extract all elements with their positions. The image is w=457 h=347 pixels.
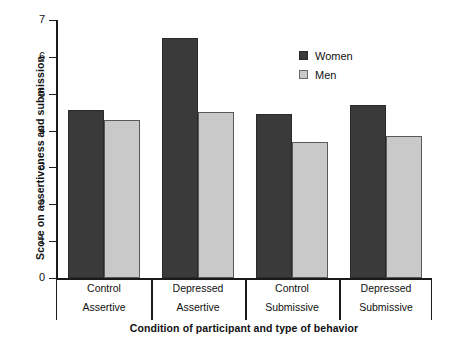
x-axis-category-4: DepressedSubmissive: [339, 279, 433, 320]
y-axis-tick-label: 5: [39, 87, 49, 100]
category-behavior-label: Assertive: [151, 301, 245, 313]
x-axis-title: Condition of participant and type of beh…: [56, 322, 432, 334]
category-separator: [151, 279, 153, 320]
x-axis-category-box: ControlAssertiveDepressedAssertiveContro…: [56, 279, 432, 320]
category-behavior-label: Submissive: [339, 301, 433, 313]
category-behavior-label: Submissive: [245, 301, 339, 313]
x-axis-category-2: DepressedAssertive: [151, 279, 245, 320]
legend-label: Women: [315, 50, 353, 62]
y-axis-tick-label: 2: [39, 197, 49, 210]
category-condition-label: Control: [245, 282, 339, 294]
y-axis-tick-label: 1: [39, 234, 49, 247]
y-axis-tick: 7: [49, 20, 56, 21]
category-separator: [245, 279, 247, 320]
legend: WomenMen: [299, 46, 353, 84]
bar-women-4: [350, 105, 386, 278]
bar-women-2: [162, 38, 198, 278]
legend-swatch-icon: [299, 70, 308, 79]
category-condition-label: Depressed: [151, 282, 245, 294]
bar-men-1: [104, 120, 140, 278]
y-axis-tick: 1: [49, 241, 56, 242]
bar-men-2: [198, 112, 234, 278]
bar-chart: Score on assertiveness and submission 76…: [0, 0, 457, 347]
bar-men-4: [386, 136, 422, 278]
x-axis-category-1: ControlAssertive: [57, 279, 151, 320]
legend-swatch-icon: [299, 51, 308, 60]
x-axis-category-3: ControlSubmissive: [245, 279, 339, 320]
y-axis-tick: 6: [49, 57, 56, 58]
y-axis-tick: 4: [49, 131, 56, 132]
y-axis-tick-label: 3: [39, 160, 49, 173]
category-behavior-label: Assertive: [57, 301, 151, 313]
y-axis-tick-label: 6: [39, 50, 49, 63]
category-condition-label: Depressed: [339, 282, 433, 294]
legend-item-men[interactable]: Men: [299, 65, 353, 84]
legend-item-women[interactable]: Women: [299, 46, 353, 65]
bar-women-1: [68, 110, 104, 278]
bar-women-3: [256, 114, 292, 278]
y-axis-tick: 2: [49, 204, 56, 205]
y-axis-tick: 5: [49, 94, 56, 95]
y-axis-tick-label: 4: [39, 124, 49, 137]
plot-area: [56, 20, 432, 278]
legend-label: Men: [315, 69, 336, 81]
category-separator: [339, 279, 341, 320]
y-axis-tick: 0: [49, 278, 56, 279]
category-condition-label: Control: [57, 282, 151, 294]
y-axis-tick-label: 0: [39, 271, 49, 284]
y-axis-tick-label: 7: [39, 13, 49, 26]
y-axis-tick: 3: [49, 167, 56, 168]
bar-men-3: [292, 142, 328, 278]
